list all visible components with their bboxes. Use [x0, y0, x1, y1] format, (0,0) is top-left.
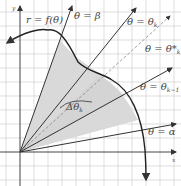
label-theta-k: θ = θk	[127, 17, 157, 28]
label-theta-k-minus-1: θ = θk−1	[140, 82, 179, 93]
curve-label: r = f(θ)	[26, 15, 63, 25]
label-alpha: θ = α	[148, 127, 176, 137]
x-axis-label: x	[172, 156, 175, 163]
y-axis-label: y	[12, 4, 15, 11]
label-theta-star: θ = θ*k	[145, 44, 180, 55]
polar-area-diagram: r = f(θ) θ = β θ = θk θ = θ*k θ = θk−1 θ…	[0, 0, 181, 186]
label-delta-theta: Δθk	[66, 102, 83, 113]
label-beta: θ = β	[74, 11, 101, 21]
